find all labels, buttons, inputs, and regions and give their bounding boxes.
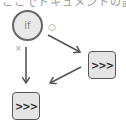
process-node-right: >>>	[88, 51, 116, 79]
if-label: if	[24, 20, 30, 31]
process-bottom-label: >>>	[15, 101, 37, 112]
arrow-right-box-to-bottom-box	[50, 67, 81, 83]
if-condition-node: if	[12, 10, 43, 41]
arrow-if-to-right-box	[48, 35, 80, 52]
process-node-bottom: >>>	[12, 92, 40, 120]
true-branch-label: ○	[48, 22, 56, 32]
process-right-label: >>>	[91, 60, 113, 71]
false-branch-label: ×	[15, 44, 22, 53]
